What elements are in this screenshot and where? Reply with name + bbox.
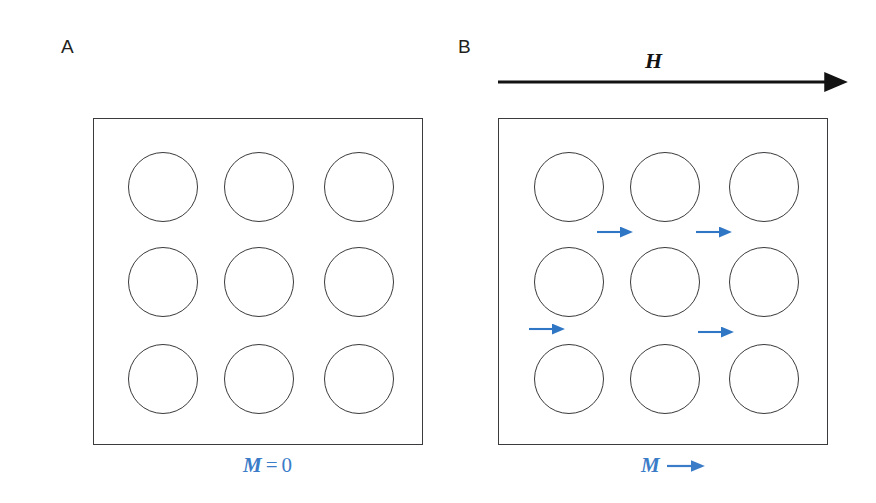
grain-circle [224,344,294,414]
magnetization-symbol: M [243,455,262,476]
panel-b-lattice-box [498,118,828,445]
moment-arrow-icon [528,321,562,337]
panel-a-label: A [61,37,74,56]
applied-field-arrow-icon [490,62,846,104]
magnetization-relation: = [266,455,278,476]
figure-canvas: A M = 0 B H [0,0,876,503]
grain-circle [324,247,394,317]
moment-arrow-icon [697,324,731,340]
grain-circle [729,152,799,222]
magnetization-value: 0 [282,455,293,476]
magnetization-direction-arrow-icon [666,458,702,473]
grain-circle [534,247,604,317]
grain-circle [224,152,294,222]
grain-circle [324,344,394,414]
moment-arrow-icon [695,224,729,240]
grain-circle [128,152,198,222]
magnetization-symbol: M [641,455,660,476]
grain-circle [534,152,604,222]
grain-circle [128,247,198,317]
grain-circle [630,344,700,414]
grain-circle [630,152,700,222]
grain-circle [729,247,799,317]
moment-arrow-icon [596,224,630,240]
panel-b-magnetization-label: M [641,455,702,476]
panel-a-magnetization-label: M = 0 [243,455,292,476]
grain-circle [324,152,394,222]
grain-circle [224,247,294,317]
grain-circle [534,344,604,414]
panel-a-lattice-box [93,118,423,445]
grain-circle [630,247,700,317]
panel-b-label: B [458,37,471,56]
grain-circle [729,344,799,414]
grain-circle [128,344,198,414]
